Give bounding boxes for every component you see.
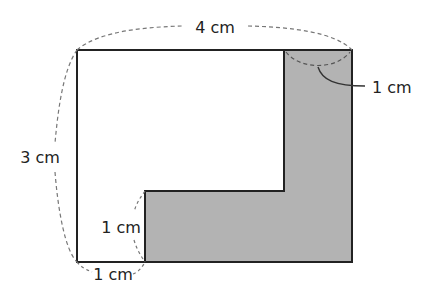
- step-arc-top: [134, 191, 145, 212]
- strip-width-label: 1 cm: [372, 78, 412, 97]
- height-arc-bottom: [55, 172, 77, 262]
- shaded-l-region: [145, 50, 352, 262]
- bottom-gap-label: 1 cm: [93, 265, 133, 284]
- height-label: 3 cm: [20, 148, 60, 167]
- width-arc: [77, 26, 182, 50]
- step-height-label: 1 cm: [101, 218, 141, 237]
- width-arc-right: [248, 26, 352, 50]
- width-label: 4 cm: [195, 18, 235, 37]
- gap-arc-left: [77, 262, 92, 272]
- figure: 4 cm 3 cm 1 cm 1 cm 1 cm: [0, 0, 435, 295]
- gap-arc-right: [133, 262, 145, 274]
- step-arc-bottom: [134, 240, 145, 262]
- height-arc-top: [55, 50, 77, 143]
